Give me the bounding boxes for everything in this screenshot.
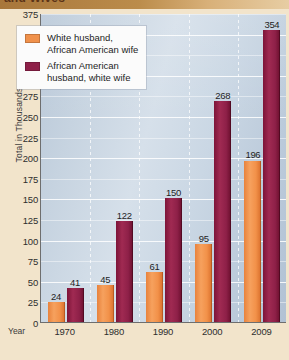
y-tick-label: 200 <box>12 153 38 164</box>
x-tick-label: 1990 <box>153 326 173 337</box>
legend-swatch-icon <box>25 62 40 71</box>
bar-value-label: 122 <box>110 210 139 221</box>
x-tick-label: 1970 <box>54 326 74 337</box>
bar-value-label: 268 <box>208 90 237 101</box>
y-tick-label: 250 <box>12 112 38 123</box>
bar <box>165 198 182 322</box>
y-tick-label: 125 <box>12 215 38 226</box>
gridline <box>41 117 286 118</box>
category-separator <box>238 14 239 322</box>
y-tick-label: 225 <box>12 132 38 143</box>
y-tick-label: 375 <box>12 9 38 20</box>
gridline <box>41 138 286 139</box>
legend-item: White husband, African American wife <box>23 32 138 55</box>
chart-figure: and Wives Total in Thousands 02550751001… <box>0 0 289 360</box>
y-tick-label: 150 <box>12 194 38 205</box>
bar <box>48 302 65 322</box>
bar <box>195 244 212 322</box>
x-tick-label: 1980 <box>104 326 124 337</box>
y-tick-label: 275 <box>12 91 38 102</box>
y-tick-label: 75 <box>12 256 38 267</box>
gridline <box>41 14 286 15</box>
page-title: and Wives <box>4 0 65 5</box>
y-tick-label: 175 <box>12 173 38 184</box>
x-tick-label: 2000 <box>202 326 222 337</box>
x-tick-label: 2009 <box>251 326 271 337</box>
y-tick-label: 50 <box>12 276 38 287</box>
bar <box>214 101 231 322</box>
bar <box>146 272 163 322</box>
bar-value-label: 41 <box>61 277 90 288</box>
legend: White husband, African American wife Afr… <box>17 26 146 89</box>
legend-label: White husband, African American wife <box>47 32 138 55</box>
y-tick-label: 25 <box>12 297 38 308</box>
bar-value-label: 150 <box>159 187 188 198</box>
bar <box>97 285 114 322</box>
x-axis-label: Year <box>8 326 25 336</box>
bar <box>67 288 84 322</box>
legend-swatch-icon <box>25 34 40 43</box>
bar <box>244 161 261 323</box>
gridline <box>41 96 286 97</box>
bar <box>116 221 133 322</box>
y-tick-label: 100 <box>12 235 38 246</box>
title-band: and Wives <box>0 0 289 9</box>
bar <box>263 30 280 322</box>
category-separator <box>189 14 190 322</box>
x-axis-ticks: 19701980199020002009 <box>40 326 286 342</box>
legend-label: African American husband, white wife <box>47 60 130 83</box>
legend-item: African American husband, white wife <box>23 60 138 83</box>
bar-value-label: 354 <box>257 19 286 30</box>
